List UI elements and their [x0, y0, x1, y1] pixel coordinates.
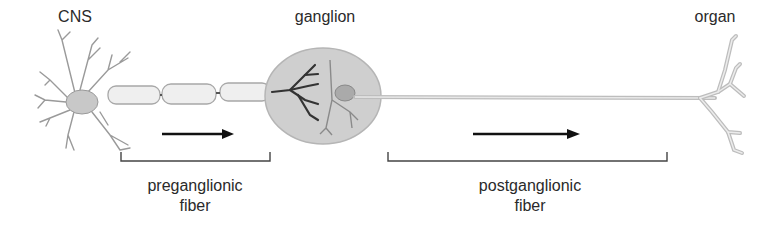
preganglionic-arrow-icon [162, 129, 234, 139]
postganglionic-fiber-label: postganglionic fiber [450, 176, 610, 216]
postganglionic-bracket [388, 152, 667, 161]
cns-cell-body [66, 90, 98, 114]
postganglionic-line1: postganglionic [450, 176, 610, 196]
preganglionic-bracket [121, 152, 270, 161]
organ-label: organ [680, 7, 750, 27]
postganglionic-arrow-icon [473, 129, 580, 139]
preganglionic-line2: fiber [120, 196, 270, 216]
autonomic-pathway-diagram [0, 0, 762, 238]
preganglionic-line1: preganglionic [120, 176, 270, 196]
preganglionic-fiber-label: preganglionic fiber [120, 176, 270, 216]
cns-label: CNS [55, 7, 95, 27]
postganglionic-line2: fiber [450, 196, 610, 216]
myelin-sheath-segments [108, 83, 270, 104]
organ-terminal-branches [700, 36, 744, 153]
ganglion-label: ganglion [285, 7, 365, 27]
